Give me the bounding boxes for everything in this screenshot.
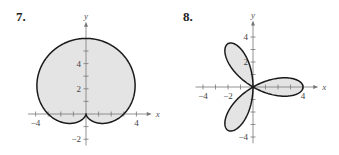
- y-tick-label: 4: [244, 32, 249, 42]
- x-axis-label: x: [321, 82, 326, 92]
- x-tick-label: −4: [198, 91, 208, 101]
- x-axis-arrow-icon: [313, 85, 318, 89]
- x-tick-label: −2: [223, 91, 233, 101]
- y-axis-arrow-icon: [251, 21, 255, 26]
- x-tick-label: 4: [301, 91, 306, 101]
- polar-graph-rose: −4−2442−4xy: [0, 0, 339, 155]
- y-axis-label: y: [250, 10, 255, 20]
- y-tick-label: −4: [238, 132, 248, 142]
